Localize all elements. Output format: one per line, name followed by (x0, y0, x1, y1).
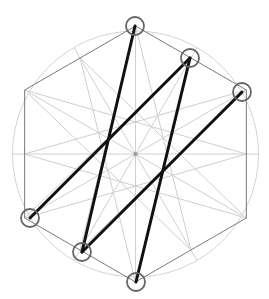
thick-segment (82, 92, 242, 252)
thick-segment (30, 58, 190, 218)
center-dot (134, 152, 138, 156)
star-line (136, 26, 192, 250)
geometric-diagram (0, 0, 269, 299)
center-point (134, 152, 138, 156)
